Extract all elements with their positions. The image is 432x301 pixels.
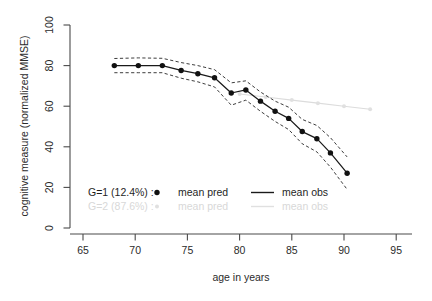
y-axis-title: cognitive measure (normalized MMSE) xyxy=(18,36,30,217)
y-axis-ticks xyxy=(64,25,71,228)
y-axis: 0 20 40 60 80 100 cognitive measure (nor… xyxy=(18,16,70,231)
data-point xyxy=(344,170,349,175)
legend-obs-label: mean obs xyxy=(282,186,328,198)
data-point xyxy=(160,63,165,68)
data-point xyxy=(290,98,294,102)
plot-area xyxy=(112,58,372,190)
x-tick-label: 90 xyxy=(338,244,350,256)
data-point xyxy=(178,68,183,73)
x-tick-label: 85 xyxy=(286,244,298,256)
data-point xyxy=(300,129,305,134)
confidence-band-confidence-lower xyxy=(114,73,347,190)
x-tick-label: 95 xyxy=(390,244,402,256)
data-point xyxy=(136,63,141,68)
data-point xyxy=(243,87,248,92)
x-axis-tick-labels: 65 70 75 80 85 90 95 xyxy=(77,244,402,256)
legend-obs-label: mean obs xyxy=(282,200,328,212)
x-tick-label: 75 xyxy=(182,244,194,256)
data-point xyxy=(368,107,372,111)
x-tick-label: 80 xyxy=(234,244,246,256)
data-point xyxy=(195,71,200,76)
y-axis-tick-labels: 0 20 40 60 80 100 xyxy=(43,16,55,231)
x-axis: 65 70 75 80 85 90 95 age in years xyxy=(70,234,412,283)
data-point xyxy=(316,101,320,105)
legend-point-marker xyxy=(154,190,159,195)
y-tick-label: 60 xyxy=(43,100,55,112)
legend-group-label: G=2 (87.6%) : xyxy=(88,200,154,212)
series-line-mean obs xyxy=(114,66,347,174)
data-point xyxy=(229,90,234,95)
chart-container: 0 20 40 60 80 100 cognitive measure (nor… xyxy=(0,0,432,301)
mmse-vs-age-line-chart: 0 20 40 60 80 100 cognitive measure (nor… xyxy=(0,0,432,301)
y-tick-label: 100 xyxy=(43,16,55,34)
data-point xyxy=(238,92,242,96)
data-point xyxy=(286,116,291,121)
x-axis-title: age in years xyxy=(212,271,269,283)
y-tick-label: 40 xyxy=(43,141,55,153)
data-point xyxy=(258,98,263,103)
x-tick-label: 70 xyxy=(129,244,141,256)
series-points-G=1 xyxy=(112,63,350,176)
data-point xyxy=(112,63,117,68)
data-point xyxy=(212,75,217,80)
chart-legend: G=1 (12.4%) :mean predmean obsG=2 (87.6%… xyxy=(88,186,328,212)
data-point xyxy=(328,150,333,155)
legend-point-marker xyxy=(155,205,159,209)
data-point xyxy=(272,109,277,114)
y-tick-label: 80 xyxy=(43,60,55,72)
x-axis-ticks xyxy=(83,234,396,241)
legend-pred-label: mean pred xyxy=(178,186,228,198)
x-tick-label: 65 xyxy=(77,244,89,256)
data-point xyxy=(314,136,319,141)
data-point xyxy=(342,104,346,108)
y-tick-label: 20 xyxy=(43,181,55,193)
legend-group-label: G=1 (12.4%) : xyxy=(88,186,154,198)
legend-pred-label: mean pred xyxy=(178,200,228,212)
y-tick-label: 0 xyxy=(43,225,55,231)
